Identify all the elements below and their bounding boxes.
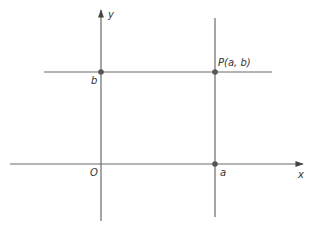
point-b (98, 69, 104, 75)
coordinate-diagram: y x O b a P(a, b) (0, 0, 317, 230)
b-label: b (91, 75, 97, 86)
point-a (212, 161, 218, 167)
point-p-label: P(a, b) (218, 57, 251, 68)
a-label: a (220, 167, 226, 178)
origin-label: O (90, 167, 98, 178)
x-axis-label: x (297, 169, 304, 180)
y-axis-label: y (107, 9, 115, 20)
point-p (212, 69, 218, 75)
